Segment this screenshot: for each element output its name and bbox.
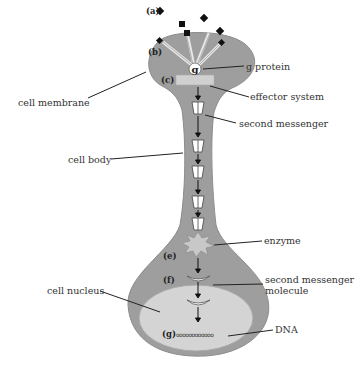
step-marker-c: (c) bbox=[161, 75, 174, 85]
label-cell-body: cell body bbox=[68, 154, 112, 165]
label-second-messenger-molecule-2: molecule bbox=[265, 285, 309, 296]
effector-system-box bbox=[176, 75, 214, 85]
step-marker-e: (e) bbox=[163, 251, 176, 261]
label-g-protein: g protein bbox=[246, 61, 290, 72]
step-marker-f: (f) bbox=[163, 275, 175, 285]
label-cell-membrane: cell membrane bbox=[18, 97, 90, 108]
label-effector-system: effector system bbox=[250, 91, 324, 102]
label-second-messenger: second messenger bbox=[239, 118, 329, 129]
g-protein-glyph: g bbox=[192, 64, 199, 75]
label-cell-nucleus: cell nucleus bbox=[47, 285, 104, 296]
step-marker-g: (g) bbox=[162, 329, 176, 339]
label-dna: DNA bbox=[275, 324, 298, 335]
dna-icon: oooooooooooo bbox=[176, 331, 214, 338]
step-marker-b: (b) bbox=[148, 47, 162, 57]
signal-transduction-diagram: g oooooooooooo (a) (b) (c) (e) (f) (g) bbox=[0, 0, 361, 375]
step-marker-a: (a) bbox=[146, 6, 160, 16]
label-enzyme: enzyme bbox=[264, 235, 301, 246]
label-second-messenger-molecule-1: second messenger bbox=[265, 274, 355, 285]
